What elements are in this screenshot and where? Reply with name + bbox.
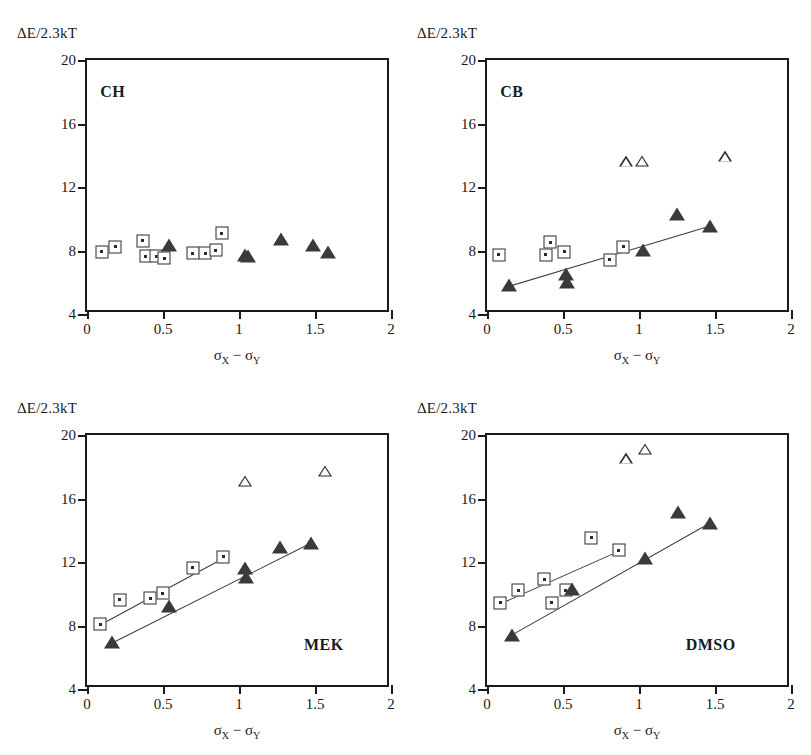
panel-title-ch: CH [100, 83, 125, 101]
x-tick-label: 2 [787, 697, 795, 712]
data-point-open-triangle [318, 465, 332, 476]
x-axis-sigma-x: σ [614, 347, 622, 363]
y-tick-label: 4 [469, 307, 477, 322]
data-point-open-square [617, 240, 630, 253]
data-point-open-square [545, 596, 558, 609]
data-point-open-triangle [718, 151, 732, 162]
y-tick-label: 20 [461, 53, 476, 68]
x-tick-mark [239, 685, 241, 694]
x-tick-label: 0 [483, 697, 491, 712]
panel-title-dmso: DMSO [686, 636, 736, 654]
y-axis-label: ΔE/2.3kT [417, 25, 477, 42]
y-tick-mark [78, 124, 87, 126]
y-axis-label: ΔE/2.3kT [17, 400, 77, 417]
x-axis-sub-x: X [222, 730, 229, 741]
x-tick-mark [487, 310, 489, 319]
data-point-filled-triangle [669, 207, 685, 220]
x-axis-label: σX − σY [614, 347, 661, 366]
x-tick-label: 2 [387, 322, 395, 337]
data-point-open-square [585, 531, 598, 544]
data-point-open-square [544, 236, 557, 249]
x-tick-mark [239, 310, 241, 319]
data-point-open-square [186, 247, 199, 260]
x-axis-label: σX − σY [214, 347, 261, 366]
y-tick-mark [78, 251, 87, 253]
y-tick-label: 16 [461, 491, 476, 506]
y-tick-mark [478, 626, 487, 628]
x-axis-sigma-x: σ [214, 347, 222, 363]
y-tick-label: 12 [61, 180, 76, 195]
x-tick-mark [791, 310, 793, 319]
x-axis-sub-y: Y [253, 730, 260, 741]
x-tick-label: 0.5 [554, 697, 573, 712]
x-axis-dash: − [233, 722, 241, 738]
x-axis-label: σX − σY [214, 722, 261, 741]
data-point-open-square [612, 544, 625, 557]
x-tick-label: 1 [635, 697, 643, 712]
x-tick-label: 1 [235, 322, 243, 337]
data-point-filled-triangle [240, 250, 256, 263]
data-point-filled-triangle [501, 279, 517, 292]
x-tick-mark [87, 310, 89, 319]
data-point-open-square [512, 584, 525, 597]
x-axis-dash: − [633, 347, 641, 363]
data-point-open-square [109, 240, 122, 253]
x-tick-mark [163, 685, 165, 694]
data-point-open-square [94, 618, 107, 631]
y-tick-mark [478, 60, 487, 62]
y-tick-label: 8 [469, 243, 477, 258]
x-axis-sub-y: Y [653, 355, 660, 366]
data-point-open-triangle [238, 475, 252, 486]
x-tick-label: 0 [83, 697, 91, 712]
data-point-open-square [144, 592, 157, 605]
y-tick-mark [478, 124, 487, 126]
data-point-open-square [215, 227, 228, 240]
x-axis-sigma-x: σ [214, 722, 222, 738]
data-point-filled-triangle [320, 245, 336, 258]
data-point-filled-triangle [273, 232, 289, 245]
x-tick-mark [639, 685, 641, 694]
y-tick-label: 4 [469, 682, 477, 697]
x-tick-label: 1.5 [706, 697, 725, 712]
y-tick-mark [478, 251, 487, 253]
x-tick-label: 2 [787, 322, 795, 337]
x-tick-mark [791, 685, 793, 694]
data-point-open-square [95, 245, 108, 258]
y-tick-label: 8 [469, 618, 477, 633]
x-axis-sub-x: X [222, 355, 229, 366]
data-point-filled-triangle [559, 275, 575, 288]
x-tick-mark [391, 310, 393, 319]
y-tick-mark [478, 435, 487, 437]
x-axis-dash: − [233, 347, 241, 363]
x-axis-sub-x: X [622, 355, 629, 366]
chart-panel-dmso: ΔE/2.3kT4812162000.511.52σX − σYDMSO [0, 0, 14, 22]
data-point-filled-triangle [702, 517, 718, 530]
data-point-open-square [186, 561, 199, 574]
y-tick-mark [78, 689, 87, 691]
data-point-open-square [156, 587, 169, 600]
data-point-filled-triangle [635, 244, 651, 257]
x-tick-label: 1.5 [306, 697, 325, 712]
data-point-open-square [113, 593, 126, 606]
data-point-filled-triangle [564, 582, 580, 595]
plot-area-ch: 4812162000.511.52 [85, 58, 389, 312]
data-point-open-triangle [619, 453, 633, 464]
y-tick-mark [478, 562, 487, 564]
y-tick-mark [478, 314, 487, 316]
x-tick-label: 1 [235, 697, 243, 712]
plot-area-cb: 4812162000.511.52 [485, 58, 789, 312]
y-tick-mark [78, 499, 87, 501]
data-point-open-square [492, 248, 505, 261]
data-point-open-triangle [638, 443, 652, 454]
x-tick-label: 0 [83, 322, 91, 337]
data-point-filled-triangle [303, 536, 319, 549]
data-point-filled-triangle [504, 628, 520, 641]
panel-title-cb: CB [500, 83, 523, 101]
y-tick-mark [478, 499, 487, 501]
x-tick-mark [315, 685, 317, 694]
x-tick-mark [563, 310, 565, 319]
panel-title-mek: MEK [304, 636, 344, 654]
data-point-open-square [158, 252, 171, 265]
y-tick-label: 20 [461, 428, 476, 443]
x-axis-dash: − [633, 722, 641, 738]
